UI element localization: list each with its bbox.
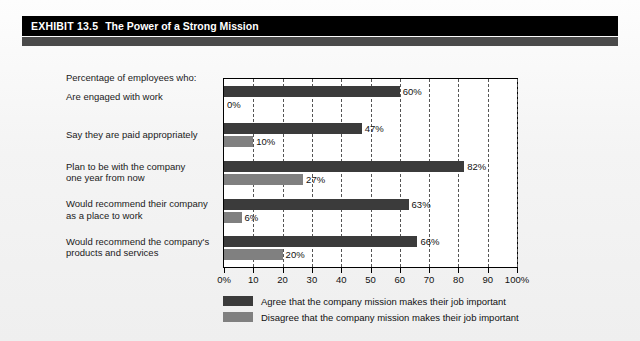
- x-axis-labels: 0%102030405060708090100%: [223, 274, 518, 288]
- bar-value-label: 20%: [286, 249, 305, 260]
- x-axis-tick-label: 10: [248, 274, 259, 285]
- x-axis-tick-label: 30: [307, 274, 318, 285]
- category-label-line: Would recommend the company's: [66, 236, 246, 248]
- x-axis-tick: [488, 268, 489, 273]
- x-axis-tick-label: 100%: [505, 274, 529, 285]
- bar-value-label: 82%: [467, 161, 486, 172]
- bar-agree: [224, 86, 400, 97]
- legend-item: Agree that the company mission makes the…: [223, 294, 519, 308]
- x-axis-tick: [400, 268, 401, 273]
- bar-disagree: [224, 174, 303, 185]
- bar-value-label: 10%: [256, 136, 275, 147]
- legend-item: Disagree that the company mission makes …: [223, 310, 519, 324]
- exhibit-number-label: EXHIBIT 13.5: [31, 20, 98, 32]
- category-label: Would recommend the company'sproducts an…: [66, 236, 246, 259]
- x-axis-tick: [517, 268, 518, 273]
- x-axis-tick-label: 80: [453, 274, 464, 285]
- category-label-line: Plan to be with the company: [66, 161, 246, 173]
- bar-value-label: 0%: [227, 99, 241, 110]
- x-axis-tick-label: 90: [482, 274, 493, 285]
- x-axis-tick: [312, 268, 313, 273]
- bar-value-label: 47%: [365, 123, 384, 134]
- bar-agree: [224, 199, 409, 210]
- legend-label: Agree that the company mission makes the…: [261, 296, 506, 307]
- category-label-line: Say they are paid appropriately: [66, 129, 246, 141]
- category-label: Would recommend their companyas a place …: [66, 198, 246, 221]
- category-label-line: Would recommend their company: [66, 198, 246, 210]
- bar-value-label: 66%: [420, 236, 439, 247]
- bar-value-label: 60%: [403, 86, 422, 97]
- bar-group: 82%27%: [224, 154, 517, 192]
- bar-disagree: [224, 249, 283, 260]
- bar-value-label: 6%: [245, 212, 259, 223]
- title-underbar: [22, 37, 618, 46]
- bar-agree: [224, 123, 362, 134]
- bar-agree: [224, 161, 464, 172]
- x-axis-tick: [371, 268, 372, 273]
- legend-swatch: [223, 312, 253, 322]
- chart-legend: Agree that the company mission makes the…: [223, 294, 519, 326]
- x-axis-tick-label: 0%: [217, 274, 231, 285]
- bar-agree: [224, 236, 417, 247]
- exhibit-figure: EXHIBIT 13.5 The Power of a Strong Missi…: [0, 0, 640, 341]
- x-axis-tick-label: 50: [365, 274, 376, 285]
- category-label-line: Are engaged with work: [66, 91, 246, 103]
- exhibit-title-bar: EXHIBIT 13.5 The Power of a Strong Missi…: [22, 16, 618, 36]
- plot-area: 60%0%47%10%82%27%63%6%66%20%: [223, 78, 518, 268]
- bar-value-label: 63%: [412, 199, 431, 210]
- bar-value-label: 27%: [306, 174, 325, 185]
- x-axis-tick: [341, 268, 342, 273]
- x-axis-tick-label: 60: [395, 274, 406, 285]
- bar-group: 63%6%: [224, 192, 517, 230]
- chart-caption: Percentage of employees who:: [66, 72, 196, 83]
- bar-group: 66%20%: [224, 229, 517, 267]
- x-axis-tick-label: 40: [336, 274, 347, 285]
- category-label: Are engaged with work: [66, 91, 246, 103]
- legend-swatch: [223, 296, 253, 306]
- bar-disagree: [224, 136, 253, 147]
- bar-disagree: [224, 212, 242, 223]
- x-axis-tickmarks: [223, 268, 518, 273]
- category-label: Plan to be with the companyone year from…: [66, 161, 246, 184]
- category-label-line: one year from now: [66, 172, 246, 184]
- x-axis-tick-label: 20: [277, 274, 288, 285]
- x-axis-tick: [224, 268, 225, 273]
- x-axis-tick: [253, 268, 254, 273]
- bar-group: 60%0%: [224, 79, 517, 117]
- category-label: Say they are paid appropriately: [66, 129, 246, 141]
- x-axis-tick: [283, 268, 284, 273]
- category-label-line: as a place to work: [66, 210, 246, 222]
- x-axis-tick-label: 70: [424, 274, 435, 285]
- bar-group: 47%10%: [224, 117, 517, 155]
- exhibit-title-text: The Power of a Strong Mission: [105, 20, 258, 32]
- category-label-line: products and services: [66, 247, 246, 259]
- gridline: [517, 79, 518, 267]
- chart-figure-area: Percentage of employees who: Are engaged…: [22, 50, 618, 328]
- x-axis-tick: [458, 268, 459, 273]
- legend-label: Disagree that the company mission makes …: [261, 312, 519, 323]
- x-axis-tick: [429, 268, 430, 273]
